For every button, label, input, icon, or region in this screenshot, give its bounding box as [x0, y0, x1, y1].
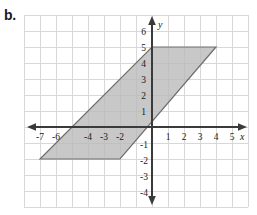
- y-tick-label-4: 4: [141, 59, 146, 69]
- y-tick-label-1: 1: [141, 107, 146, 117]
- y-tick-label--3: -3: [140, 172, 148, 182]
- x-tick-label--4: -4: [84, 132, 92, 142]
- x-axis-left-arrow: [27, 123, 36, 131]
- x-tick-label--7: -7: [36, 132, 44, 142]
- x-tick-label-1: 1: [166, 132, 171, 142]
- x-tick-label--3: -3: [100, 132, 108, 142]
- figure-panel: b.: [0, 0, 257, 215]
- y-tick-label--1: -1: [140, 140, 148, 150]
- x-tick-label--6: -6: [52, 132, 60, 142]
- y-tick-label--2: -2: [140, 156, 148, 166]
- x-tick-label-5: 5: [230, 132, 235, 142]
- x-tick-label-2: 2: [182, 132, 187, 142]
- coordinate-graph: -7 -6 -4 -3 -2 1 2 3 4 5 6 5 4 3 2 1 -1 …: [0, 0, 257, 215]
- x-tick-label-4: 4: [214, 132, 219, 142]
- y-tick-label-3: 3: [141, 75, 146, 85]
- y-tick-label--4: -4: [140, 188, 148, 198]
- x-tick-label--2: -2: [116, 132, 124, 142]
- y-tick-label-5: 5: [141, 43, 146, 53]
- y-tick-label-6: 6: [141, 27, 146, 37]
- x-tick-label-3: 3: [198, 132, 203, 142]
- shaded-parallelogram: [40, 47, 216, 159]
- x-axis-right-arrow: [238, 123, 247, 131]
- y-axis-label: y: [157, 19, 163, 30]
- y-tick-label-2: 2: [141, 91, 146, 101]
- x-axis-label: x: [239, 131, 245, 142]
- y-axis-down-arrow: [148, 196, 156, 205]
- y-axis-up-arrow: [148, 16, 156, 25]
